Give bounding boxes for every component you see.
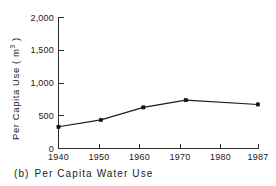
caption-text: Per Capita Water Use [35,168,154,179]
data-point-1987 [256,103,259,106]
data-point-1970 [184,99,187,102]
data-point-1960 [142,106,145,109]
series-line [59,100,259,127]
y-tick-label-2000: 2,000 [30,13,54,23]
data-point-1950 [99,118,102,121]
data-point-1940 [57,125,60,128]
y-axis-label-suffix: ) [10,37,21,44]
x-tick-label-1960: 1960 [129,152,150,162]
figure-per-capita-water-use: Per Capita Use ( m3 ) 2,000 1,500 1,000 … [0,0,276,186]
y-tick-label-1000: 1,000 [30,78,54,88]
y-axis-label: Per Capita Use ( m3 ) [9,37,21,140]
x-tick-label-1970: 1970 [170,152,191,162]
figure-caption: (b)Per Capita Water Use [14,168,153,179]
caption-tag: (b) [14,168,30,179]
y-tick-label-500: 500 [38,111,54,121]
x-tick-label-1987: 1987 [248,152,269,162]
x-tick-label-1940: 1940 [48,152,69,162]
y-axis-label-main: Per Capita Use ( m [10,48,21,140]
y-tick-label-1500: 1,500 [30,45,54,55]
x-tick-label-1950: 1950 [89,152,110,162]
x-tick-label-1980: 1980 [210,152,231,162]
line-chart: Per Capita Use ( m3 ) 2,000 1,500 1,000 … [0,0,276,186]
data-series-per-capita-water-use [57,99,260,129]
